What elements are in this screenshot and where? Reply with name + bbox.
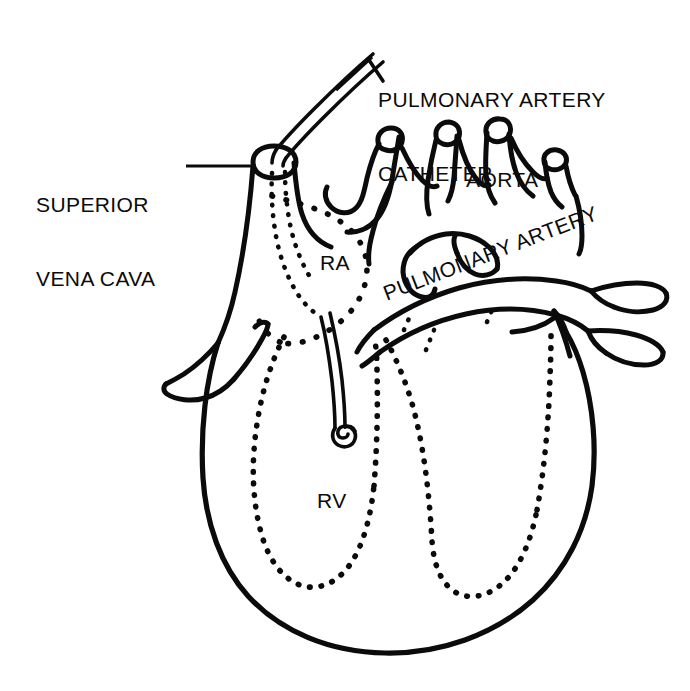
label-aorta: AORTA — [466, 168, 538, 193]
label-superior-vena-cava: SUPERIOR VENA CAVA — [36, 143, 156, 341]
label-right-atrium: RA — [320, 251, 350, 276]
label-right-ventricle: RV — [317, 489, 347, 514]
inferior-vena-cava-vessel — [164, 322, 268, 400]
figure-root: PULMONARY ARTERY CATHETER SUPERIOR VENA … — [0, 0, 690, 691]
label-svc-line2: VENA CAVA — [36, 267, 156, 292]
leader-lines — [186, 57, 372, 166]
leader-line-pa-catheter — [336, 57, 372, 90]
label-pa-catheter-line1: PULMONARY ARTERY — [378, 88, 606, 113]
right-ventricle-chamber — [253, 337, 377, 587]
pulmonary-artery-vessel — [357, 247, 667, 366]
label-pulmonary-artery-catheter: PULMONARY ARTERY CATHETER — [378, 38, 606, 236]
label-svc-line1: SUPERIOR — [36, 193, 156, 218]
left-ventricle-chamber — [386, 332, 551, 596]
